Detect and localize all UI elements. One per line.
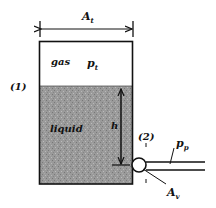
- tank-diagram: At gas pt (1) liquid h (2) pp Av: [0, 0, 216, 208]
- gas-label: gas: [51, 56, 70, 67]
- liquid-label: liquid: [50, 123, 83, 134]
- tank-area-label: At: [81, 10, 95, 25]
- height-label: h: [111, 120, 118, 131]
- valve-area-label: Av: [166, 186, 181, 201]
- section-1-label: (1): [10, 81, 27, 92]
- tank-width-dimension: At: [40, 10, 133, 37]
- pipe-pressure-label: pp: [176, 137, 189, 152]
- liquid-region: [40, 86, 133, 184]
- valve-and-pipe: (2) pp Av: [132, 131, 205, 201]
- section-2-label: (2): [138, 131, 155, 142]
